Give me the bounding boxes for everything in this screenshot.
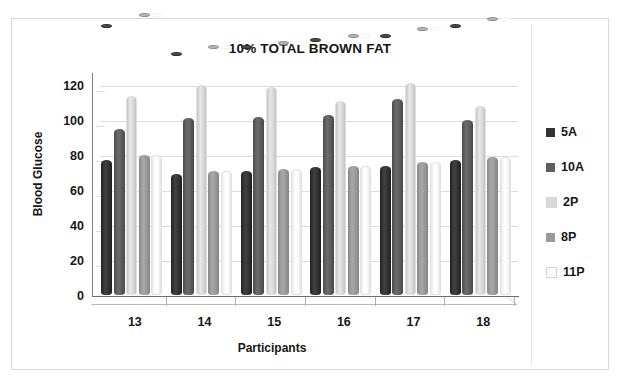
bar-cap xyxy=(348,34,359,38)
legend-item-11p[interactable]: 11P xyxy=(546,263,608,281)
bar-2p-13[interactable] xyxy=(126,96,137,296)
bar-body xyxy=(266,87,277,295)
bar-10a-13[interactable] xyxy=(114,129,125,295)
bar-body xyxy=(241,171,252,295)
bar-2p-15[interactable] xyxy=(266,87,277,295)
bar-11p-13[interactable] xyxy=(151,155,162,295)
legend-swatch-icon xyxy=(546,197,557,208)
bar-8p-14[interactable] xyxy=(208,171,219,295)
bar-11p-17[interactable] xyxy=(430,162,441,295)
legend-label: 10A xyxy=(561,160,584,174)
bar-body xyxy=(208,171,219,295)
bar-10a-15[interactable] xyxy=(253,117,264,296)
bar-group xyxy=(239,78,309,296)
legend-swatch-icon xyxy=(546,128,555,137)
bar-body xyxy=(253,117,264,296)
bar-5a-18[interactable] xyxy=(450,160,461,295)
x-tick-label: 18 xyxy=(448,315,518,329)
bar-body xyxy=(348,166,359,296)
bar-body xyxy=(380,166,391,296)
bar-body xyxy=(291,169,302,295)
bar-8p-15[interactable] xyxy=(278,169,289,295)
bar-cap xyxy=(450,24,461,28)
bar-2p-17[interactable] xyxy=(405,83,416,295)
bar-11p-15[interactable] xyxy=(291,169,302,295)
bar-body xyxy=(323,115,334,295)
chart-title: 10% TOTAL BROWN FAT xyxy=(12,41,608,56)
bar-8p-17[interactable] xyxy=(417,162,428,295)
legend-item-10a[interactable]: 10A xyxy=(546,158,608,176)
bar-2p-14[interactable] xyxy=(196,85,207,295)
bar-10a-14[interactable] xyxy=(183,118,194,295)
bar-body xyxy=(196,85,207,295)
bar-11p-16[interactable] xyxy=(360,166,371,296)
legend-item-5a[interactable]: 5A xyxy=(546,123,608,141)
bar-group xyxy=(379,78,449,296)
y-tick-label: 100 xyxy=(40,115,84,128)
bar-body xyxy=(221,171,232,295)
bar-cap xyxy=(487,17,498,21)
bar-5a-16[interactable] xyxy=(310,167,321,295)
bar-body xyxy=(475,106,486,295)
legend-divider xyxy=(531,25,532,365)
bar-10a-16[interactable] xyxy=(323,115,334,295)
legend-item-2p[interactable]: 2P xyxy=(546,193,608,211)
bar-body xyxy=(417,162,428,295)
bar-11p-18[interactable] xyxy=(500,157,511,295)
x-tick-label: 17 xyxy=(379,315,449,329)
bar-body xyxy=(335,101,346,295)
bar-2p-18[interactable] xyxy=(475,106,486,295)
bar-group xyxy=(448,78,518,296)
y-tick-label: 120 xyxy=(40,80,84,93)
bar-cap xyxy=(139,13,150,17)
bar-8p-16[interactable] xyxy=(348,166,359,296)
legend-swatch-icon xyxy=(546,233,555,242)
bar-body xyxy=(171,174,182,295)
x-tick-label: 16 xyxy=(309,315,379,329)
bar-5a-14[interactable] xyxy=(171,174,182,295)
x-tick-label: 14 xyxy=(170,315,240,329)
x-tick-mark xyxy=(166,297,167,306)
legend-swatch-icon xyxy=(546,267,557,278)
legend-label: 5A xyxy=(561,125,577,139)
x-tick-label: 13 xyxy=(100,315,170,329)
bar-body xyxy=(114,129,125,295)
bar-body xyxy=(183,118,194,295)
bar-cap xyxy=(291,41,302,45)
bar-5a-15[interactable] xyxy=(241,171,252,295)
legend-label: 11P xyxy=(563,265,585,279)
bar-5a-17[interactable] xyxy=(380,166,391,296)
chart-floor xyxy=(80,296,518,305)
bar-group xyxy=(309,78,379,296)
bar-10a-18[interactable] xyxy=(462,120,473,295)
chart-card: 10% TOTAL BROWN FAT Blood Glucose Partic… xyxy=(11,18,609,370)
bar-cap xyxy=(151,13,162,17)
bar-cap xyxy=(380,34,391,38)
legend-swatch-icon xyxy=(546,163,555,172)
plot-area: 020406080100120 131415161718 xyxy=(100,79,518,297)
x-tick-label: 15 xyxy=(239,315,309,329)
bar-group xyxy=(170,78,240,296)
x-axis-title: Participants xyxy=(42,341,502,355)
bar-body xyxy=(487,157,498,295)
y-tick-label: 60 xyxy=(40,185,84,198)
bar-8p-13[interactable] xyxy=(139,155,150,295)
bar-cap xyxy=(221,45,232,49)
bar-8p-18[interactable] xyxy=(487,157,498,295)
y-tick-label: 80 xyxy=(40,150,84,163)
bar-body xyxy=(310,167,321,295)
y-tick-label: 40 xyxy=(40,220,84,233)
bar-body xyxy=(405,83,416,295)
bar-body xyxy=(500,157,511,295)
bar-body xyxy=(360,166,371,296)
bar-cap xyxy=(500,17,511,21)
legend-item-8p[interactable]: 8P xyxy=(546,228,608,246)
bar-2p-16[interactable] xyxy=(335,101,346,295)
x-tick-mark xyxy=(444,297,445,306)
bar-cap xyxy=(208,45,219,49)
x-tick-mark xyxy=(514,297,515,306)
bar-11p-14[interactable] xyxy=(221,171,232,295)
bar-cap xyxy=(430,27,441,31)
bar-10a-17[interactable] xyxy=(392,99,403,295)
bar-5a-13[interactable] xyxy=(101,160,112,295)
